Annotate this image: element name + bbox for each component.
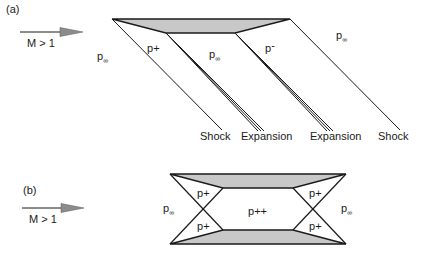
region-p-plus-upper-right: p+ [309, 187, 322, 199]
region-p-inf-3: p∞ [336, 29, 347, 43]
lower-wedge-plate [170, 230, 346, 244]
region-p-inf-left: p∞ [163, 202, 174, 216]
flow-arrow-icon [20, 28, 83, 37]
region-p-minus: p- [265, 39, 275, 54]
region-p-inf-right: p∞ [341, 202, 352, 216]
region-p-plus-lower-right: p+ [309, 220, 322, 232]
upper-wedge-plate [170, 174, 346, 188]
panel-b: (b) M > 1 p∞ p+ p+ p++ p+ p+ p∞ [22, 174, 352, 244]
mach-label: M > 1 [27, 37, 55, 49]
expansion-label-1: Expansion [241, 130, 292, 142]
region-p-plus-upper-left: p+ [197, 187, 210, 199]
region-p-plus: p+ [147, 42, 160, 54]
expansion-label-2: Expansion [310, 130, 361, 142]
region-p-plus-plus: p++ [248, 205, 267, 217]
region-p-inf-1: p∞ [97, 50, 108, 64]
shock-label-2: Shock [378, 130, 409, 142]
diamond-airfoil [112, 19, 290, 33]
panel-a: (a) M > 1 p∞ p+ p∞ p- p∞ Shock [6, 3, 409, 142]
region-p-plus-lower-left: p+ [197, 220, 210, 232]
region-p-inf-2: p∞ [209, 48, 220, 62]
mach-label: M > 1 [29, 213, 57, 225]
diagram-canvas: (a) M > 1 p∞ p+ p∞ p- p∞ Shock [0, 0, 429, 257]
flow-arrow-icon [22, 204, 84, 213]
panel-a-label: (a) [6, 3, 19, 15]
panel-b-label: (b) [23, 184, 36, 196]
shock-label-1: Shock [200, 130, 231, 142]
